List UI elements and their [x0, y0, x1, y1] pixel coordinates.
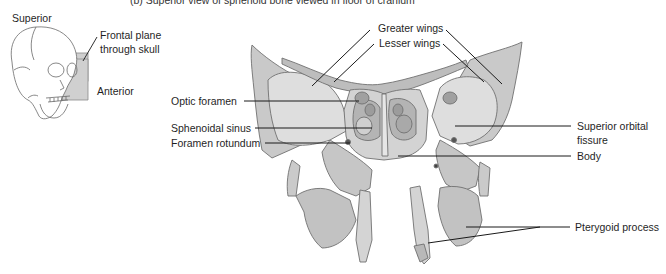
inset-superior-label: Superior	[12, 12, 52, 24]
label-superior-orbital-fissure-line1: Superior orbital	[577, 120, 648, 132]
label-body: Body	[577, 150, 601, 162]
inset-plane-label-line2: through skull	[100, 43, 160, 55]
label-superior-orbital-fissure-line2: fissure	[577, 134, 608, 146]
label-foramen-rotundum: Foramen rotundum	[171, 137, 260, 149]
label-greater-wings: Greater wings	[378, 22, 443, 34]
label-sphenoidal-sinus: Sphenoidal sinus	[171, 122, 251, 134]
label-optic-foramen: Optic foramen	[171, 95, 237, 107]
label-lesser-wings: Lesser wings	[379, 37, 440, 49]
label-pterygoid-process: Pterygoid process	[575, 221, 659, 233]
inset-anterior-label: Anterior	[97, 85, 134, 97]
figure-title: (b) Superior view of sphenoid bone viewe…	[130, 0, 415, 6]
plane-leader-line	[83, 37, 97, 61]
inset-plane-label-line1: Frontal plane	[100, 29, 161, 41]
sphenoid-bone-illustration	[251, 42, 522, 264]
sphenoid-diagram-art	[0, 0, 666, 274]
inset-skull-icon	[11, 27, 88, 119]
